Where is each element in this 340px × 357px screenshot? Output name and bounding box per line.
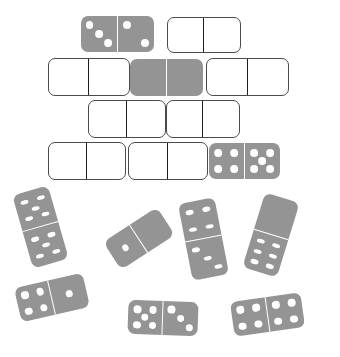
domino-loose-2[interactable]	[178, 197, 229, 281]
pip	[267, 149, 275, 157]
pip	[290, 315, 299, 324]
pip	[185, 209, 194, 215]
pip	[252, 304, 261, 313]
domino-wall-r1-t2-half-a	[207, 59, 248, 95]
pip	[177, 315, 185, 323]
domino-wall-r0-t0-half-a	[81, 16, 118, 52]
pip	[86, 21, 94, 29]
pip	[253, 248, 262, 255]
domino-loose-1[interactable]	[103, 207, 175, 270]
pip	[39, 303, 48, 312]
pip	[31, 236, 40, 242]
dominoes-canvas	[0, 0, 340, 357]
domino-wall-r3-t0[interactable]	[48, 142, 126, 180]
pip	[149, 322, 157, 330]
pip	[41, 211, 50, 217]
pip	[250, 258, 259, 265]
domino-wall-r2-t1-half-a	[167, 101, 203, 137]
pip	[250, 165, 258, 173]
domino-loose-5[interactable]	[127, 300, 198, 336]
domino-wall-r1-t0[interactable]	[48, 58, 130, 96]
pip	[258, 157, 266, 165]
pip	[230, 149, 238, 157]
domino-wall-r0-t0[interactable]	[81, 16, 154, 52]
pip	[272, 242, 281, 249]
domino-wall-r2-t0-half-a	[89, 101, 127, 137]
domino-loose-5-half-b	[162, 301, 198, 336]
domino-loose-6-half-a	[230, 297, 270, 337]
domino-wall-r3-t0-half-a	[49, 143, 87, 179]
pip	[120, 243, 130, 253]
pip	[214, 263, 223, 269]
pip	[191, 247, 200, 253]
pip	[104, 39, 112, 47]
pip	[230, 165, 238, 173]
pip	[31, 205, 40, 211]
pip	[24, 307, 33, 316]
pip	[35, 253, 44, 259]
domino-wall-r3-t2[interactable]	[209, 143, 280, 179]
pip	[256, 237, 265, 244]
pip	[189, 227, 198, 233]
pip	[236, 306, 245, 315]
domino-wall-r2-t0-half-b	[127, 101, 165, 137]
domino-wall-r0-t1-half-b	[204, 18, 240, 52]
pip	[141, 314, 149, 322]
pip	[254, 320, 263, 329]
domino-wall-r3-t1-half-b	[168, 143, 207, 179]
pip	[185, 324, 193, 332]
domino-wall-r2-t0[interactable]	[88, 100, 166, 138]
pip	[215, 165, 223, 173]
pip	[274, 317, 283, 326]
domino-wall-r0-t1[interactable]	[167, 17, 241, 53]
domino-wall-r3-t0-half-b	[87, 143, 125, 179]
domino-wall-r2-t1[interactable]	[166, 100, 240, 138]
pip	[269, 253, 278, 260]
domino-wall-r3-t2-half-b	[245, 143, 281, 179]
pip	[203, 255, 212, 261]
pip	[267, 165, 275, 173]
pip	[238, 322, 247, 331]
domino-wall-r1-t0-half-b	[89, 59, 129, 95]
domino-wall-r1-t1-half-b	[167, 59, 204, 96]
domino-loose-6-half-b	[265, 292, 305, 332]
pip	[52, 248, 61, 254]
pip	[266, 263, 275, 270]
pip	[140, 39, 148, 47]
pip	[20, 199, 29, 205]
pip	[149, 306, 157, 314]
pip	[168, 306, 176, 314]
pip	[41, 242, 50, 248]
domino-wall-r3-t1-half-a	[129, 143, 168, 179]
domino-wall-r1-t2-half-b	[248, 59, 289, 95]
domino-wall-r1-t2[interactable]	[206, 58, 289, 96]
domino-loose-5-half-a	[127, 300, 163, 335]
pip	[288, 299, 297, 308]
domino-wall-r0-t0-half-b	[118, 16, 155, 52]
domino-loose-4-half-b	[48, 273, 90, 315]
pip	[95, 30, 103, 38]
pip	[21, 291, 30, 300]
pip	[250, 149, 258, 157]
domino-loose-3[interactable]	[242, 192, 299, 277]
domino-wall-r1-t0-half-a	[49, 59, 89, 95]
pip	[205, 223, 214, 229]
pip	[215, 149, 223, 157]
domino-wall-r3-t1[interactable]	[128, 142, 208, 180]
pip	[25, 216, 34, 222]
domino-loose-6[interactable]	[230, 292, 305, 337]
domino-wall-r1-t1[interactable]	[130, 59, 203, 96]
domino-wall-r0-t1-half-a	[168, 18, 204, 52]
domino-loose-0[interactable]	[12, 185, 69, 268]
pip	[202, 206, 211, 212]
domino-wall-r1-t1-half-a	[130, 59, 167, 96]
pip	[36, 287, 45, 296]
domino-wall-r2-t1-half-b	[203, 101, 239, 137]
pip	[271, 301, 280, 310]
domino-loose-4[interactable]	[14, 273, 90, 323]
pip	[47, 231, 56, 237]
domino-loose-2-half-b	[185, 235, 229, 280]
pip	[64, 289, 73, 298]
domino-loose-0-half-b	[23, 222, 69, 269]
pip	[123, 21, 131, 29]
